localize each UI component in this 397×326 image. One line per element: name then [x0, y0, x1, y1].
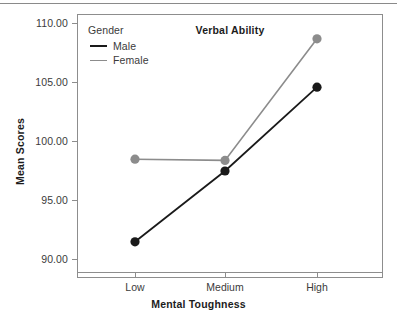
legend-label-male: Male: [113, 40, 136, 52]
series-male-point-low: [130, 237, 139, 246]
legend-item-female[interactable]: Female: [90, 53, 174, 67]
legend-title: Gender: [88, 24, 174, 36]
y-tick-label-95: 95.00: [18, 194, 68, 206]
x-tick-label-medium: Medium: [185, 281, 265, 293]
series-male-point-high: [312, 83, 321, 92]
chart-canvas: [0, 0, 397, 326]
legend-swatch-female-icon: [90, 60, 107, 61]
legend-label-female: Female: [113, 54, 149, 66]
series-male-point-medium: [220, 166, 229, 175]
x-axis-title: Mental Toughness: [0, 298, 397, 310]
y-axis-title: Mean Scores: [14, 118, 26, 185]
chart-figure: 110.00 105.00 100.00 95.00 90.00 Low Med…: [0, 0, 397, 326]
legend-swatch-male-icon: [90, 45, 107, 47]
y-axis-ticks: [72, 24, 77, 260]
y-tick-label-105: 105.00: [18, 76, 68, 88]
series-female-point-high: [312, 34, 321, 43]
series-female-point-low: [130, 155, 139, 164]
legend: Gender Male Female: [88, 24, 174, 67]
x-tick-label-low: Low: [95, 281, 175, 293]
x-axis: [77, 273, 383, 278]
chart-title: Verbal Ability: [160, 24, 300, 36]
y-tick-label-90: 90.00: [18, 253, 68, 265]
series-female-point-medium: [220, 156, 229, 165]
legend-item-male[interactable]: Male: [90, 39, 174, 53]
x-tick-label-high: High: [277, 281, 357, 293]
y-tick-label-110: 110.00: [18, 17, 68, 29]
